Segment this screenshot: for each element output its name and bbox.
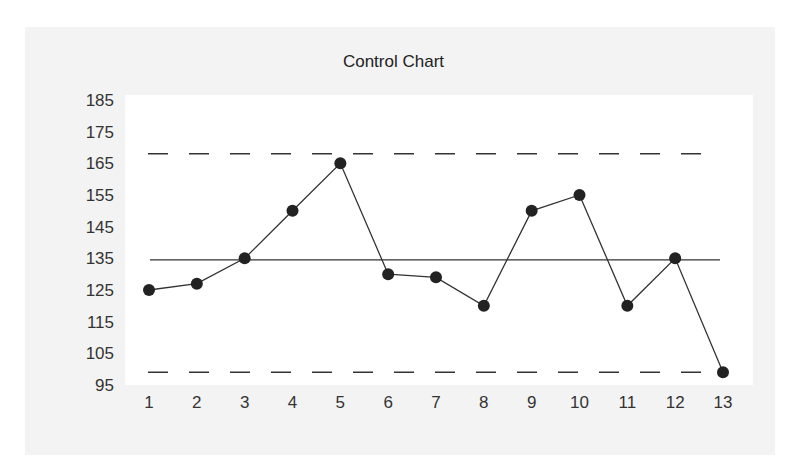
y-tick-label: 115 <box>87 313 114 332</box>
x-tick-label: 13 <box>714 393 733 412</box>
data-point-markers <box>143 157 729 378</box>
y-axis-ticks: 18517516515514513512511510595 <box>86 91 114 395</box>
y-tick-label: 175 <box>86 123 114 142</box>
x-tick-label: 2 <box>192 393 201 412</box>
data-point <box>526 205 538 217</box>
data-point <box>717 366 729 378</box>
x-tick-label: 12 <box>666 393 685 412</box>
x-tick-label: 11 <box>619 393 637 412</box>
y-tick-label: 165 <box>86 154 114 173</box>
x-tick-label: 6 <box>383 393 392 412</box>
y-tick-label: 185 <box>86 91 114 110</box>
data-point <box>239 252 251 264</box>
y-tick-label: 105 <box>86 344 114 363</box>
x-axis-ticks: 12345678910111213 <box>144 393 732 412</box>
y-tick-label: 155 <box>86 186 114 205</box>
data-point <box>191 278 203 290</box>
data-point <box>143 284 155 296</box>
y-tick-label: 135 <box>86 249 114 268</box>
x-tick-label: 9 <box>527 393 536 412</box>
y-tick-label: 145 <box>86 218 114 237</box>
control-chart: 18517516515514513512511510595 1234567891… <box>0 0 787 468</box>
data-point <box>334 157 346 169</box>
x-tick-label: 3 <box>240 393 249 412</box>
data-point <box>430 271 442 283</box>
data-point <box>382 268 394 280</box>
y-tick-label: 125 <box>86 281 114 300</box>
x-tick-label: 8 <box>479 393 488 412</box>
x-tick-label: 4 <box>288 393 297 412</box>
x-tick-label: 1 <box>144 393 153 412</box>
data-point <box>621 300 633 312</box>
data-series-line <box>149 163 723 372</box>
x-tick-label: 10 <box>570 393 589 412</box>
data-point <box>574 189 586 201</box>
x-tick-label: 7 <box>431 393 440 412</box>
data-point <box>669 252 681 264</box>
y-tick-label: 95 <box>95 376 114 395</box>
x-tick-label: 5 <box>336 393 345 412</box>
data-point <box>478 300 490 312</box>
data-point <box>287 205 299 217</box>
